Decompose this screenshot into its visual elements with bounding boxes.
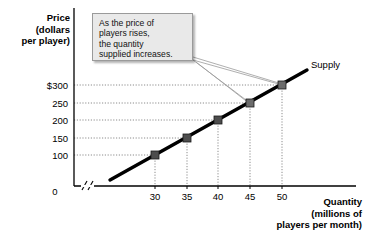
x-axis-title-line-2: (millions of [256,208,362,220]
data-point-40-200 [214,116,222,124]
data-point-30-100 [151,151,159,159]
y-axis-title: Price (dollars per player) [8,12,70,47]
x-axis-title-line-3: players per month) [256,219,362,231]
data-point-45-250 [246,99,254,107]
supply-curve [110,70,307,180]
y-tick-label-150: 150 [28,133,68,144]
price-guide-lines [74,85,282,155]
x-tick-label-30: 30 [142,191,168,202]
y-axis-title-line-3: per player) [8,35,70,47]
y-axis-title-line-1: Price [8,12,70,24]
annotation-callout-text: As the price of players rises, the quant… [99,18,187,60]
y-tick-label-250: 250 [28,98,68,109]
data-point-50-300 [278,81,286,89]
annotation-callout: As the price of players rises, the quant… [92,13,193,61]
callout-pointer-lines [193,57,282,104]
x-tick-label-40: 40 [205,191,231,202]
data-point-35-150 [183,134,191,142]
y-tick-label-300: $300 [28,80,68,91]
origin-label: 0 [48,186,62,197]
x-tick-label-50: 50 [269,191,295,202]
supply-curve-label: Supply [311,59,340,70]
supply-curve-figure: Price (dollars per player) Quantity (mil… [0,0,367,243]
x-tick-label-35: 35 [174,191,200,202]
y-tick-label-200: 200 [28,115,68,126]
y-tick-label-100: 100 [28,150,68,161]
quantity-guide-lines [155,85,282,185]
x-tick-label-45: 45 [237,191,263,202]
y-axis-title-line-2: (dollars [8,24,70,36]
